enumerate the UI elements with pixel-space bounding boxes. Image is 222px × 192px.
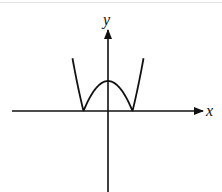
x-axis-label: x [205, 102, 213, 119]
plot-area: x y [0, 0, 222, 192]
y-axis-label: y [101, 11, 111, 29]
